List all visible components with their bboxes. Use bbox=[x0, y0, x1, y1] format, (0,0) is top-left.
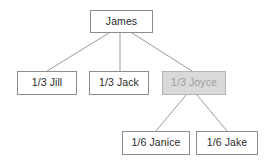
node-jack[interactable]: 1/3 Jack bbox=[89, 71, 149, 95]
node-janice[interactable]: 1/6 Janice bbox=[122, 131, 190, 155]
node-label-james: James bbox=[106, 16, 137, 28]
node-label-janice: 1/6 Janice bbox=[132, 137, 181, 149]
node-james[interactable]: James bbox=[90, 10, 153, 33]
node-jill[interactable]: 1/3 Jill bbox=[17, 71, 77, 95]
node-label-joyce: 1/3 Joyce bbox=[171, 77, 217, 89]
node-label-jack: 1/3 Jack bbox=[99, 77, 139, 89]
edge-james-to-jill bbox=[47, 33, 109, 71]
node-label-jill: 1/3 Jill bbox=[32, 77, 63, 89]
edge-james-to-joyce bbox=[132, 33, 192, 71]
edge-joyce-to-janice bbox=[156, 95, 186, 131]
node-jake[interactable]: 1/6 Jake bbox=[196, 131, 258, 155]
node-label-jake: 1/6 Jake bbox=[207, 137, 248, 149]
node-joyce[interactable]: 1/3 Joyce bbox=[162, 71, 226, 95]
edge-joyce-to-jake bbox=[197, 95, 227, 131]
inheritance-tree-diagram: James1/3 Jill1/3 Jack1/3 Joyce1/6 Janice… bbox=[0, 0, 275, 167]
